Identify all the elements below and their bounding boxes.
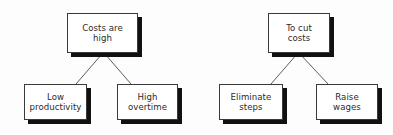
node-to-cut-costs-label: To cut costs bbox=[284, 23, 314, 44]
node-to-cut-costs[interactable]: To cut costs bbox=[268, 13, 330, 53]
node-high-overtime[interactable]: High overtime bbox=[117, 84, 178, 120]
connector-cut-to-eliminate-steps bbox=[271, 54, 297, 84]
node-eliminate-steps[interactable]: Eliminate steps bbox=[219, 84, 283, 120]
node-low-productivity-label: Low productivity bbox=[28, 92, 84, 113]
connector-cut-to-raise-wages bbox=[300, 54, 328, 84]
connector-costs-to-high-overtime bbox=[105, 54, 131, 84]
diagram-canvas: Costs are highLow productivityHigh overt… bbox=[0, 0, 393, 135]
node-costs-are-high[interactable]: Costs are high bbox=[67, 13, 138, 53]
node-costs-are-high-label: Costs are high bbox=[80, 23, 125, 44]
node-raise-wages-label: Raise wages bbox=[331, 92, 363, 113]
node-eliminate-steps-label: Eliminate steps bbox=[229, 92, 274, 113]
connector-costs-to-low-productivity bbox=[76, 54, 102, 84]
node-high-overtime-label: High overtime bbox=[126, 92, 169, 113]
node-low-productivity[interactable]: Low productivity bbox=[24, 84, 87, 120]
node-raise-wages[interactable]: Raise wages bbox=[316, 84, 378, 120]
